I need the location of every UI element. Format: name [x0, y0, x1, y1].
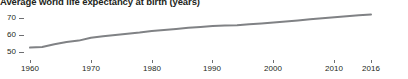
- chart-title: Average world life expectancy at birth (…: [0, 0, 200, 7]
- life-expectancy-line: [30, 15, 371, 48]
- x-axis-tick-mark-1960: [30, 60, 31, 63]
- x-axis-tick-label-1960: 1960: [21, 64, 39, 73]
- x-axis-tick-label-2016: 2016: [362, 64, 380, 73]
- x-axis-tick-label-1990: 1990: [203, 64, 221, 73]
- plot-area: [0, 10, 408, 60]
- x-axis-tick-label-1980: 1980: [143, 64, 161, 73]
- life-expectancy-chart: Average world life expectancy at birth (…: [0, 0, 408, 79]
- x-axis-tick-label-2010: 2010: [325, 64, 343, 73]
- x-axis-tick-mark-2000: [273, 60, 274, 63]
- x-axis-tick-mark-2010: [334, 60, 335, 63]
- x-axis-tick-mark-1990: [212, 60, 213, 63]
- x-axis-tick-label-1970: 1970: [82, 64, 100, 73]
- x-axis-tick-mark-1980: [152, 60, 153, 63]
- x-axis-tick-label-2000: 2000: [264, 64, 282, 73]
- line-series-svg: [0, 10, 408, 60]
- x-axis-tick-mark-2016: [371, 60, 372, 63]
- x-axis-tick-mark-1970: [91, 60, 92, 63]
